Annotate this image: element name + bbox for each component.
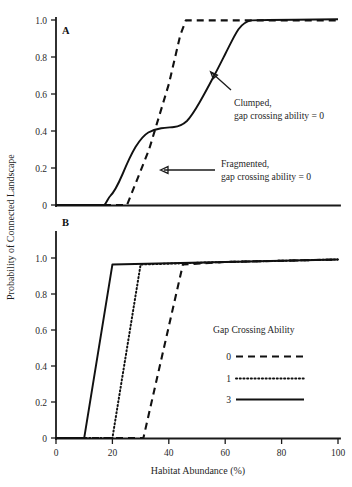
y-axis-title: Probability of Connected Landscape — [5, 154, 16, 300]
x-tick-label: 80 — [277, 448, 287, 458]
panel-b: B 1.0 0.8 0.6 0.4 0.2 0 0 — [35, 217, 345, 477]
panel-a-y-tick-label: 0.6 — [35, 90, 47, 100]
x-tick-label: 100 — [331, 448, 346, 458]
annotation-clumped-arrow-line — [212, 73, 231, 90]
panel-b-x-tick-labels: 0 20 40 60 80 100 — [54, 448, 346, 458]
annotation-clumped: Clumped, gap crossing ability = 0 — [211, 72, 325, 121]
panel-a-y-tick-label: 0 — [42, 201, 47, 211]
legend-item-label: 0 — [226, 351, 231, 362]
panel-b-x-ticks — [56, 439, 338, 444]
legend: Gap Crossing Ability 0 1 3 — [213, 324, 304, 405]
panel-b-y-tick-labels: 1.0 0.8 0.6 0.4 0.2 0 — [35, 254, 47, 444]
series-gap-3 — [56, 260, 338, 439]
legend-item-label: 3 — [226, 394, 231, 405]
x-tick-label: 40 — [164, 448, 174, 458]
annotation-fragmented-line1: Fragmented, — [221, 158, 269, 169]
panel-a-y-tick-label: 0.4 — [35, 127, 47, 137]
annotation-fragmented: Fragmented, gap crossing ability = 0 — [161, 158, 312, 182]
figure-container: Probability of Connected Landscape 1.0 0… — [0, 0, 352, 487]
two-panel-line-chart: Probability of Connected Landscape 1.0 0… — [0, 0, 352, 487]
panel-b-y-tick-label: 0.2 — [35, 398, 47, 408]
panel-a: 1.0 0.8 0.6 0.4 0.2 0 A Clumped, gap cro… — [35, 16, 340, 211]
panel-b-y-tick-label: 0.4 — [35, 362, 47, 372]
panel-a-y-tick-label: 0.2 — [35, 164, 47, 174]
panel-a-y-tick-labels: 1.0 0.8 0.6 0.4 0.2 0 — [35, 16, 47, 211]
annotation-clumped-line1: Clumped, — [234, 97, 272, 108]
panel-b-y-tick-label: 0 — [42, 434, 47, 444]
legend-item-0: 0 — [226, 351, 304, 362]
panel-b-y-tick-label: 0.6 — [35, 326, 47, 336]
panel-a-y-tick-label: 0.8 — [35, 53, 47, 63]
panel-b-y-tick-label: 0.8 — [35, 290, 47, 300]
x-axis-title: Habitat Abundance (%) — [151, 465, 245, 477]
x-tick-label: 20 — [108, 448, 118, 458]
legend-item-1: 1 — [226, 373, 304, 384]
x-tick-label: 60 — [220, 448, 230, 458]
x-tick-label: 0 — [54, 448, 59, 458]
panel-a-y-tick-label: 1.0 — [35, 16, 47, 26]
annotation-fragmented-line2: gap crossing ability = 0 — [221, 171, 311, 182]
panel-a-label: A — [62, 25, 70, 36]
panel-b-label: B — [62, 217, 69, 228]
legend-item-3: 3 — [226, 394, 304, 405]
legend-item-label: 1 — [226, 373, 231, 384]
annotation-clumped-line2: gap crossing ability = 0 — [234, 110, 324, 121]
legend-title: Gap Crossing Ability — [213, 324, 295, 335]
panel-b-y-tick-label: 1.0 — [35, 254, 47, 264]
